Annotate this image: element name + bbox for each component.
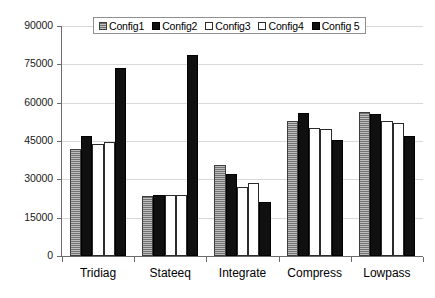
- bar-lowpass-config1: [359, 112, 370, 256]
- y-axis-tick-label: 90000: [24, 19, 53, 32]
- legend-label: Config2: [162, 20, 197, 32]
- legend-label: Config4: [268, 20, 303, 32]
- bar-stateeq-config3: [165, 195, 176, 256]
- plot-area: [62, 26, 423, 256]
- legend-label: Config 5: [322, 20, 360, 32]
- bar-stateeq-config2: [153, 195, 164, 256]
- x-axis-tick-mark: [423, 257, 424, 262]
- legend-entry-config2: Config2: [152, 20, 197, 32]
- bar-tridiag-config1: [70, 149, 81, 256]
- legend-swatch-icon: [152, 22, 160, 30]
- bar-compress-config1: [287, 121, 298, 256]
- y-axis-tick-label: 45000: [24, 134, 53, 147]
- legend-swatch-icon: [99, 22, 107, 30]
- bar-integrate-config1: [214, 165, 225, 256]
- x-axis-label-tridiag: Tridiag: [62, 266, 134, 281]
- bar-tridiag-config5: [115, 68, 126, 256]
- legend-swatch-icon: [205, 22, 213, 30]
- x-axis-tick-mark: [62, 257, 63, 262]
- bar-compress-config3: [309, 128, 320, 256]
- y-axis-tick-label: 60000: [24, 96, 53, 109]
- bar-stateeq-config4: [176, 195, 187, 256]
- bar-tridiag-config2: [81, 136, 92, 256]
- x-axis-tick-mark: [351, 257, 352, 262]
- x-axis-label-integrate: Integrate: [206, 266, 278, 281]
- bar-compress-config4: [320, 129, 331, 256]
- bar-integrate-config4: [248, 183, 259, 256]
- y-axis-tick-label: 75000: [24, 57, 53, 70]
- bar-tridiag-config3: [92, 144, 103, 256]
- x-axis-line: [61, 256, 423, 257]
- legend-label: Config3: [215, 20, 250, 32]
- legend-swatch-icon: [312, 22, 320, 30]
- bar-compress-config2: [298, 113, 309, 256]
- legend-entry-config5: Config 5: [312, 20, 360, 32]
- bar-integrate-config5: [259, 202, 270, 256]
- legend-swatch-icon: [258, 22, 266, 30]
- bar-lowpass-config3: [381, 121, 392, 256]
- bar-lowpass-config4: [393, 123, 404, 256]
- y-axis-tick-label: 15000: [24, 211, 53, 224]
- x-axis-label-compress: Compress: [279, 266, 351, 281]
- legend-label: Config1: [109, 20, 144, 32]
- x-axis-tick-mark: [279, 257, 280, 262]
- bar-stateeq-config1: [142, 196, 153, 256]
- bar-stateeq-config5: [187, 55, 198, 256]
- y-axis-tick-label: 0: [47, 249, 53, 262]
- x-axis-label-stateeq: Stateeq: [134, 266, 206, 281]
- bar-integrate-config3: [237, 187, 248, 256]
- bar-lowpass-config2: [370, 114, 381, 256]
- x-axis-tick-mark: [206, 257, 207, 262]
- legend-entry-config4: Config4: [258, 20, 303, 32]
- bar-compress-config5: [332, 140, 343, 256]
- bar-tridiag-config4: [104, 142, 115, 256]
- legend-entry-config1: Config1: [99, 20, 144, 32]
- bar-chart: 0150003000045000600007500090000 TridiagS…: [0, 0, 435, 298]
- legend: Config1Config2Config3Config4Config 5: [93, 17, 366, 34]
- y-axis-tick-label: 30000: [24, 172, 53, 185]
- bar-integrate-config2: [226, 174, 237, 256]
- x-axis-label-lowpass: Lowpass: [351, 266, 423, 281]
- legend-entry-config3: Config3: [205, 20, 250, 32]
- x-axis-tick-mark: [134, 257, 135, 262]
- bar-lowpass-config5: [404, 136, 415, 256]
